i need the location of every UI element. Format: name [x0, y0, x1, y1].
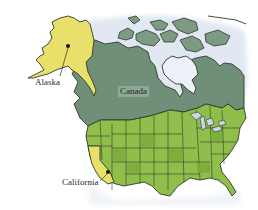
- alaska-label: Alaska: [35, 78, 60, 87]
- alaska-marker: [66, 44, 70, 48]
- canada-label: Canada: [118, 86, 149, 97]
- map-canvas: [0, 0, 258, 210]
- map: Alaska Canada California: [0, 0, 258, 210]
- california-label: California: [62, 178, 99, 187]
- california-marker: [106, 170, 110, 174]
